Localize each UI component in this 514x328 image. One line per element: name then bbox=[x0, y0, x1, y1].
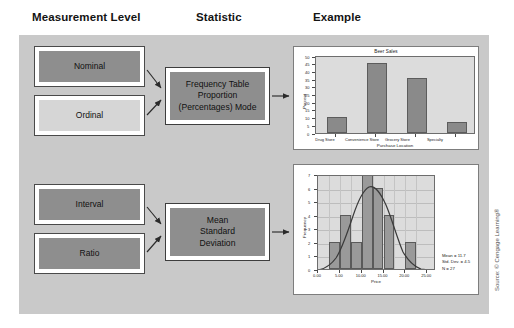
chart-card-bar: Beer Sales Percent 50 45 40 35 30 25 20 … bbox=[293, 46, 479, 150]
statistic-box-mean: Mean Standard Deviation bbox=[165, 203, 270, 261]
bar-chart-title: Beer Sales bbox=[294, 49, 478, 54]
ytick: 1 bbox=[308, 254, 310, 259]
ytick: 30 bbox=[305, 85, 309, 90]
bar-chart-xlabel: Purchase Location bbox=[315, 143, 475, 148]
xtick: 25.00 bbox=[419, 273, 433, 278]
statistic-box-frequency: Frequency Table Proportion (Percentages)… bbox=[165, 67, 270, 125]
level-label-interval: Interval bbox=[39, 189, 140, 220]
xtick: 15.00 bbox=[376, 273, 390, 278]
ytick: 20 bbox=[305, 101, 309, 106]
ytick: 15 bbox=[305, 108, 309, 113]
annotation-n: N = 27 bbox=[442, 266, 470, 272]
statistic-line-3: (Percentages) Mode bbox=[179, 102, 257, 112]
ytick: 0 bbox=[307, 132, 309, 137]
annotation-std-dev: Std. Dev. = 4.5 bbox=[442, 259, 470, 265]
ytick: 6 bbox=[308, 187, 310, 192]
ytick: 50 bbox=[305, 55, 309, 60]
ytick: 5 bbox=[307, 124, 309, 129]
ytick: 40 bbox=[305, 70, 309, 75]
level-label-nominal: Nominal bbox=[39, 51, 140, 82]
ytick: 7 bbox=[308, 173, 310, 178]
ytick: 2 bbox=[308, 241, 310, 246]
histogram-xlabel: Price bbox=[317, 279, 435, 284]
bar-grocery-store bbox=[407, 78, 427, 133]
ytick: 5 bbox=[308, 200, 310, 205]
xtick: 10.00 bbox=[354, 273, 368, 278]
heading-example: Example bbox=[313, 11, 361, 23]
xtick: Drug Store bbox=[315, 137, 335, 142]
chart-card-histogram: Frequency 7 6 5 4 3 2 1 0 bbox=[293, 164, 479, 295]
level-box-ratio: Ratio bbox=[34, 233, 145, 274]
ytick: 35 bbox=[305, 78, 309, 83]
ytick: 25 bbox=[305, 93, 309, 98]
normal-curve-overlay bbox=[318, 176, 435, 270]
statistic-text-frequency: Frequency Table Proportion (Percentages)… bbox=[170, 72, 265, 120]
bar-specialty bbox=[447, 122, 467, 133]
ytick: 4 bbox=[308, 214, 310, 219]
heading-statistic: Statistic bbox=[196, 11, 242, 23]
level-label-ordinal: Ordinal bbox=[39, 100, 140, 131]
xtick: 0.00 bbox=[310, 273, 324, 278]
statistic-line-1: Frequency Table bbox=[186, 79, 249, 89]
bar-drug-store bbox=[327, 117, 347, 133]
level-box-interval: Interval bbox=[34, 184, 145, 225]
xtick: Convenience Store bbox=[345, 137, 365, 142]
level-box-ordinal: Ordinal bbox=[34, 95, 145, 136]
ytick: 45 bbox=[305, 62, 309, 67]
xtick: 5.00 bbox=[332, 273, 346, 278]
source-credit: Source: © Cengage Learning® bbox=[494, 191, 500, 291]
xtick: Specialty bbox=[425, 137, 445, 142]
column-headings: Measurement Level Statistic Example bbox=[0, 6, 514, 32]
ytick: 10 bbox=[305, 116, 309, 121]
ytick: 0 bbox=[308, 268, 310, 273]
histogram-ylabel: Frequency bbox=[302, 208, 307, 248]
ytick: 3 bbox=[308, 227, 310, 232]
statistic-line-3: Deviation bbox=[200, 238, 236, 248]
histogram-plot-area bbox=[317, 175, 435, 270]
statistic-line-1: Mean bbox=[207, 215, 229, 225]
statistic-text-mean: Mean Standard Deviation bbox=[170, 208, 265, 256]
bar-convenience-store bbox=[367, 63, 387, 133]
xtick: 20.00 bbox=[397, 273, 411, 278]
heading-measurement-level: Measurement Level bbox=[32, 11, 140, 23]
statistic-line-2: Proportion bbox=[198, 90, 238, 100]
bar-chart-plot-area bbox=[315, 56, 475, 134]
level-box-nominal: Nominal bbox=[34, 46, 145, 87]
level-label-ratio: Ratio bbox=[39, 238, 140, 269]
statistic-line-2: Standard bbox=[200, 226, 235, 236]
xtick: Grocery Store bbox=[385, 137, 405, 142]
histogram-annotations: Mean = 11.7 Std. Dev. = 4.5 N = 27 bbox=[442, 253, 470, 272]
figure-root: Measurement Level Statistic Example Nomi… bbox=[0, 0, 514, 328]
